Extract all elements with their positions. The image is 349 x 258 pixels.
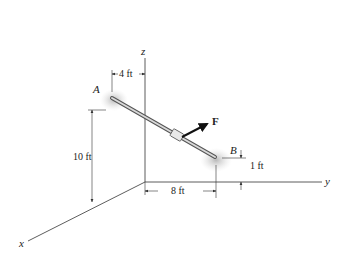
point-A-label: A — [93, 84, 100, 95]
force-F-label: F — [212, 116, 219, 127]
dim-4ft: 4 ft — [119, 69, 133, 79]
diagram-graphics — [0, 0, 349, 258]
y-axis-label: y — [325, 176, 330, 187]
dim-8ft: 8 ft — [171, 186, 185, 196]
x-axis-label: x — [19, 238, 24, 249]
force-arrow — [182, 124, 207, 137]
dim-1ft: 1 ft — [250, 161, 264, 171]
point-B-label: B — [230, 145, 237, 156]
x-axis — [28, 182, 145, 241]
rod-force-diagram: z y x A B F 4 ft 10 ft 8 ft 1 ft — [0, 0, 349, 258]
dim-10ft: 10 ft — [73, 152, 92, 162]
z-axis-label: z — [141, 46, 145, 57]
